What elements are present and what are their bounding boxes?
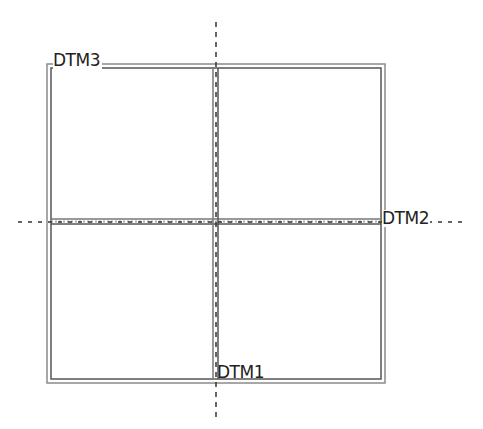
label-dtm2: DTM2 (382, 210, 430, 227)
label-dtm3: DTM3 (53, 52, 102, 69)
label-dtm1: DTM1 (217, 364, 264, 381)
